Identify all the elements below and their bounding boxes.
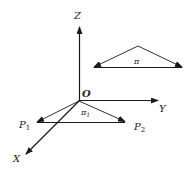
p1-label: P1 — [18, 119, 30, 132]
plane-pi1-label: π1 — [80, 108, 90, 118]
origin-label: O — [82, 88, 91, 99]
z-axis-label: Z — [73, 10, 82, 21]
x-axis-label: X — [12, 153, 21, 164]
coordinate-diagram: Z Y X O π π1 P1 P2 — [0, 0, 193, 177]
x-axis — [26, 101, 80, 155]
p2-label: P2 — [133, 121, 145, 134]
y-axis-label: Y — [159, 103, 167, 114]
plane-pi-label: π — [133, 57, 140, 66]
